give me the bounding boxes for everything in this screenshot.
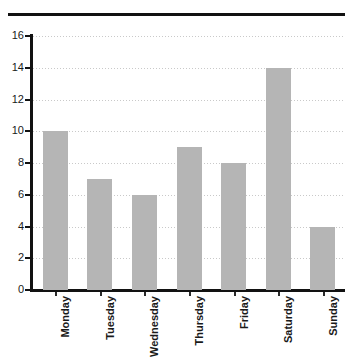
x-axis-tick — [278, 292, 280, 296]
x-axis-tick — [323, 292, 325, 296]
bar — [266, 68, 291, 290]
y-axis-tick — [25, 257, 30, 259]
y-axis-tick — [25, 35, 30, 37]
y-axis-tick-label: 2 — [0, 252, 24, 263]
bar — [221, 163, 246, 290]
header-rule — [8, 13, 345, 16]
y-axis-labels: 0246810121416 — [0, 0, 24, 361]
x-axis-tick-label: Sunday — [328, 296, 339, 336]
y-axis-tick-label: 12 — [0, 94, 24, 105]
y-axis-tick-label: 10 — [0, 125, 24, 136]
x-axis-tick — [234, 292, 236, 296]
bar — [310, 227, 335, 291]
y-axis-tick — [25, 226, 30, 228]
x-axis-tick-label: Monday — [60, 296, 71, 338]
y-axis-tick-label: 6 — [0, 189, 24, 200]
bar-chart-figure: Jelly 0246810121416 MondayTuesdayWednesd… — [0, 0, 351, 361]
x-axis-tick-label: Friday — [239, 296, 250, 329]
y-axis-tick — [25, 67, 30, 69]
y-axis-tick-label: 8 — [0, 157, 24, 168]
x-axis-tick — [144, 292, 146, 296]
y-axis-tick — [25, 289, 30, 291]
y-axis-tick — [25, 162, 30, 164]
y-axis-tick — [25, 99, 30, 101]
x-axis-tick-label: Wednesday — [149, 296, 160, 357]
y-axis-tick — [25, 194, 30, 196]
bar — [43, 131, 68, 290]
x-axis-tick-label: Saturday — [283, 296, 294, 343]
bar — [177, 147, 202, 290]
y-axis-tick — [25, 130, 30, 132]
x-axis-tick — [100, 292, 102, 296]
bar — [132, 195, 157, 290]
y-axis-tick-label: 16 — [0, 30, 24, 41]
x-axis-tick-label: Tuesday — [105, 296, 116, 340]
x-axis-tick — [189, 292, 191, 296]
y-axis-tick-label: 14 — [0, 62, 24, 73]
y-axis-tick-label: 4 — [0, 221, 24, 232]
x-axis-tick-label: Thursday — [194, 296, 205, 346]
bar-series — [33, 36, 345, 290]
bar — [87, 179, 112, 290]
plot-area — [33, 36, 345, 290]
chart-title-clipped: Jelly — [0, 0, 351, 8]
y-axis-tick-label: 0 — [0, 284, 24, 295]
x-axis-tick — [55, 292, 57, 296]
